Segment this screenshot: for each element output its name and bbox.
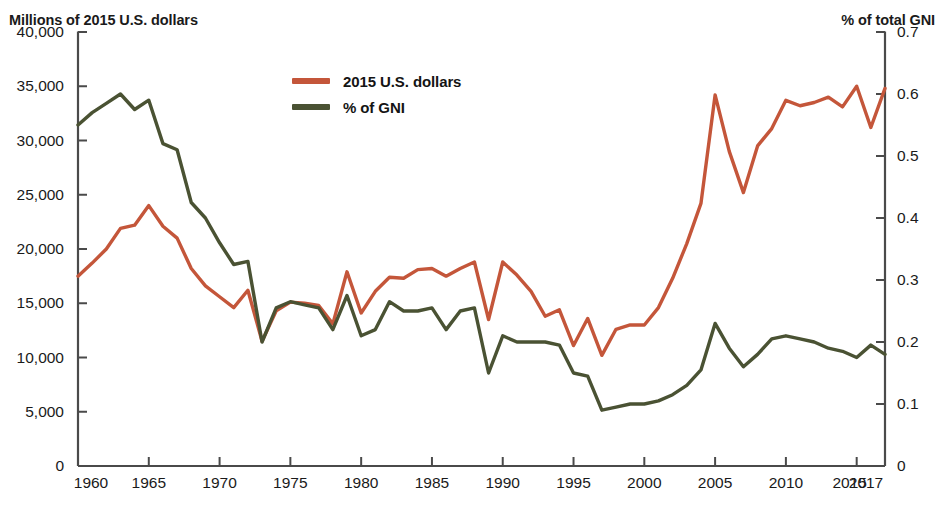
y-left-tick-label: 35,000 bbox=[0, 77, 64, 95]
y-left-tick-label: 30,000 bbox=[0, 132, 64, 150]
y-left-tick-label: 10,000 bbox=[0, 349, 64, 367]
legend-swatch-line-icon bbox=[292, 104, 330, 110]
x-tick-label: 2005 bbox=[698, 474, 732, 492]
x-tick-label: 1970 bbox=[202, 474, 236, 492]
chart-figure: Millions of 2015 U.S. dollars % of total… bbox=[0, 0, 941, 513]
y-left-tick-label: 40,000 bbox=[0, 23, 64, 41]
y-right-tick-label: 0.5 bbox=[897, 147, 919, 165]
axis-ticks bbox=[78, 32, 885, 466]
y-right-tick-label: 0.2 bbox=[897, 333, 919, 351]
y-right-tick-label: 0.1 bbox=[897, 395, 919, 413]
series-line-gni bbox=[78, 94, 885, 410]
series-line-dollars bbox=[78, 86, 885, 355]
x-tick-label: 1985 bbox=[415, 474, 449, 492]
y-left-tick-label: 15,000 bbox=[0, 294, 64, 312]
x-tick-label: 2000 bbox=[627, 474, 661, 492]
axis-lines bbox=[78, 32, 885, 467]
legend-label: 2015 U.S. dollars bbox=[343, 73, 461, 90]
x-tick-label: 2017 bbox=[849, 474, 883, 492]
legend-item: 2015 U.S. dollars bbox=[292, 68, 461, 94]
chart-legend: 2015 U.S. dollars% of GNI bbox=[292, 68, 461, 120]
y-right-tick-label: 0.3 bbox=[897, 271, 919, 289]
legend-swatch-line-icon bbox=[292, 78, 330, 84]
plot-area bbox=[0, 0, 941, 513]
y-right-tick-label: 0.4 bbox=[897, 209, 919, 227]
y-left-tick-label: 20,000 bbox=[0, 240, 64, 258]
y-left-tick-label: 5,000 bbox=[0, 403, 64, 421]
x-tick-label: 1965 bbox=[132, 474, 166, 492]
x-tick-label: 1975 bbox=[273, 474, 307, 492]
legend-label: % of GNI bbox=[343, 99, 405, 116]
x-tick-label: 1980 bbox=[344, 474, 378, 492]
y-left-tick-label: 25,000 bbox=[0, 186, 64, 204]
y-right-tick-label: 0 bbox=[897, 457, 906, 475]
y-left-tick-label: 0 bbox=[0, 457, 64, 475]
x-tick-label: 1990 bbox=[485, 474, 519, 492]
y-right-tick-label: 0.6 bbox=[897, 85, 919, 103]
legend-item: % of GNI bbox=[292, 94, 461, 120]
x-tick-label: 1995 bbox=[556, 474, 590, 492]
data-series-group bbox=[78, 86, 885, 410]
y-right-tick-label: 0.7 bbox=[897, 23, 919, 41]
x-tick-label: 1960 bbox=[74, 474, 108, 492]
x-tick-label: 2010 bbox=[769, 474, 803, 492]
